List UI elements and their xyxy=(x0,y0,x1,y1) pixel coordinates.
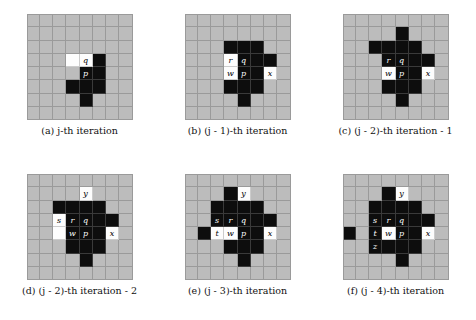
cell-b-r3-c0 xyxy=(185,54,198,67)
caption-f: (f) (j - 4)-th iteration xyxy=(318,285,473,296)
cell-a-r1-c2 xyxy=(53,27,66,40)
grid-a: qp xyxy=(27,14,133,120)
cell-c-r1-c4 xyxy=(396,27,409,40)
cell-f-r6-c6 xyxy=(422,254,435,267)
cell-b-r5-c3 xyxy=(224,80,237,93)
cell-a-r1-c0 xyxy=(27,27,40,40)
cell-d-r2-c5 xyxy=(93,201,106,214)
cell-c-r3-c5 xyxy=(409,54,422,67)
cell-f-r4-c6: x xyxy=(422,227,435,240)
panel-f: ysrqtwpxz(f) (j - 4)-th iteration xyxy=(318,174,473,296)
cell-b-r1-c7 xyxy=(277,27,290,40)
cell-b-r5-c7 xyxy=(277,80,290,93)
cell-f-r2-c6 xyxy=(422,201,435,214)
cell-label: r xyxy=(386,216,390,225)
grid-c: rqwpx xyxy=(343,14,449,120)
cell-d-r2-c7 xyxy=(119,201,132,214)
cell-d-r7-c0 xyxy=(27,267,40,280)
cell-a-r0-c2 xyxy=(53,14,66,27)
cell-b-r7-c6 xyxy=(264,107,277,120)
cell-label: s xyxy=(215,216,219,225)
cell-d-r0-c0 xyxy=(27,174,40,187)
cell-a-r4-c3 xyxy=(66,67,79,80)
cell-a-r5-c5 xyxy=(93,80,106,93)
cell-b-r7-c3 xyxy=(224,107,237,120)
cell-d-r5-c4 xyxy=(80,240,93,253)
cell-f-r1-c3 xyxy=(382,187,395,200)
cell-c-r2-c2 xyxy=(369,41,382,54)
cell-label: p xyxy=(399,229,404,238)
cell-d-r1-c5 xyxy=(93,187,106,200)
grid-d: ysrqwpx xyxy=(27,174,133,280)
cell-b-r6-c2 xyxy=(211,94,224,107)
cell-f-r0-c7 xyxy=(435,174,448,187)
cell-a-r1-c3 xyxy=(66,27,79,40)
cell-e-r3-c1 xyxy=(198,214,211,227)
cell-e-r4-c0 xyxy=(185,227,198,240)
panel-d: ysrqwpx(d) (j - 2)-th iteration - 2 xyxy=(2,174,157,296)
cell-e-r4-c7 xyxy=(277,227,290,240)
cell-a-r1-c1 xyxy=(40,27,53,40)
cell-a-r0-c7 xyxy=(119,14,132,27)
cell-label: q xyxy=(241,216,246,225)
cell-c-r6-c6 xyxy=(422,94,435,107)
cell-f-r4-c2: t xyxy=(369,227,382,240)
cell-a-r3-c1 xyxy=(40,54,53,67)
cell-d-r5-c1 xyxy=(40,240,53,253)
figure-panel-grid: qp(a) j-th iterationrqwpx(b) (j - 1)-th … xyxy=(0,0,476,320)
cell-c-r6-c7 xyxy=(435,94,448,107)
cell-a-r4-c1 xyxy=(40,67,53,80)
cell-a-r2-c1 xyxy=(40,41,53,54)
cell-f-r6-c5 xyxy=(409,254,422,267)
cell-f-r1-c2 xyxy=(369,187,382,200)
cell-f-r0-c2 xyxy=(369,174,382,187)
cell-label: x xyxy=(426,229,431,238)
cell-f-r6-c7 xyxy=(435,254,448,267)
cell-d-r1-c1 xyxy=(40,187,53,200)
cell-e-r3-c5 xyxy=(251,214,264,227)
cell-a-r0-c4 xyxy=(80,14,93,27)
cell-b-r7-c0 xyxy=(185,107,198,120)
cell-label: q xyxy=(241,56,246,65)
cell-c-r2-c7 xyxy=(435,41,448,54)
cell-b-r0-c0 xyxy=(185,14,198,27)
cell-d-r1-c6 xyxy=(106,187,119,200)
cell-a-r1-c7 xyxy=(119,27,132,40)
cell-d-r6-c2 xyxy=(53,254,66,267)
cell-d-r2-c4 xyxy=(80,201,93,214)
cell-label: w xyxy=(385,229,392,238)
cell-f-r6-c3 xyxy=(382,254,395,267)
cell-c-r3-c6 xyxy=(422,54,435,67)
cell-f-r0-c4 xyxy=(396,174,409,187)
caption-b: (b) (j - 1)-th iteration xyxy=(160,125,315,136)
cell-c-r7-c2 xyxy=(369,107,382,120)
cell-b-r3-c7 xyxy=(277,54,290,67)
cell-c-r5-c3 xyxy=(382,80,395,93)
cell-f-r4-c1 xyxy=(356,227,369,240)
cell-d-r7-c4 xyxy=(80,267,93,280)
cell-d-r7-c6 xyxy=(106,267,119,280)
cell-f-r3-c7 xyxy=(435,214,448,227)
cell-f-r0-c3 xyxy=(382,174,395,187)
cell-f-r2-c5 xyxy=(409,201,422,214)
cell-b-r5-c6 xyxy=(264,80,277,93)
cell-a-r5-c3 xyxy=(66,80,79,93)
cell-e-r7-c4 xyxy=(238,267,251,280)
cell-b-r2-c4 xyxy=(238,41,251,54)
cell-d-r4-c4: p xyxy=(80,227,93,240)
cell-f-r7-c5 xyxy=(409,267,422,280)
cell-e-r4-c4: p xyxy=(238,227,251,240)
cell-f-r1-c5 xyxy=(409,187,422,200)
cell-a-r3-c6 xyxy=(106,54,119,67)
cell-b-r4-c3: w xyxy=(224,67,237,80)
cell-d-r6-c6 xyxy=(106,254,119,267)
caption-c: (c) (j - 2)-th iteration - 1 xyxy=(318,125,473,136)
cell-a-r7-c4 xyxy=(80,107,93,120)
cell-d-r3-c1 xyxy=(40,214,53,227)
cell-d-r7-c1 xyxy=(40,267,53,280)
cell-f-r1-c4: y xyxy=(396,187,409,200)
cell-e-r7-c6 xyxy=(264,267,277,280)
cell-d-r2-c3 xyxy=(66,201,79,214)
cell-a-r2-c7 xyxy=(119,41,132,54)
cell-a-r7-c3 xyxy=(66,107,79,120)
